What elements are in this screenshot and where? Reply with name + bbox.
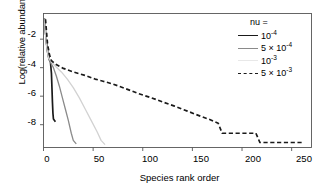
y-tick-label: -8 bbox=[18, 116, 36, 127]
legend-item-1[interactable]: 5 × 10-4 bbox=[238, 42, 292, 55]
legend-swatch-solid-lightgray bbox=[238, 60, 258, 61]
x-tick-label: 0 bbox=[32, 153, 62, 164]
legend-item-2[interactable]: 10-3 bbox=[238, 55, 292, 68]
series-line-2 bbox=[44, 19, 105, 144]
legend-swatch-solid-black bbox=[238, 35, 258, 36]
y-tick-label: -2 bbox=[18, 28, 36, 39]
legend-label-2: 10-3 bbox=[261, 55, 277, 68]
legend-swatch-solid-gray bbox=[238, 48, 258, 49]
legend-label-0: 10-4 bbox=[261, 30, 277, 43]
x-tick-label: 150 bbox=[186, 153, 216, 164]
series-line-1 bbox=[44, 19, 76, 144]
x-tick-label: 50 bbox=[84, 153, 114, 164]
x-tick-label: 200 bbox=[238, 153, 268, 164]
y-axis-label: Log(relative abundance) bbox=[16, 0, 27, 101]
y-tick-label: -6 bbox=[18, 87, 36, 98]
x-axis-label: Species rank order bbox=[47, 172, 312, 183]
legend-title: nu = bbox=[250, 16, 292, 29]
legend-label-3: 5 × 10-3 bbox=[261, 67, 292, 80]
x-tick-label: 250 bbox=[289, 153, 319, 164]
chart-figure: Log(relative abundance) Species rank ord… bbox=[0, 0, 328, 190]
legend-item-3[interactable]: 5 × 10-3 bbox=[238, 67, 292, 80]
y-tick-label: -4 bbox=[18, 58, 36, 69]
legend: nu = 10-4 5 × 10-4 10-3 5 × 10-3 bbox=[238, 16, 292, 80]
legend-swatch-dashed-black bbox=[238, 73, 258, 74]
legend-item-0[interactable]: 10-4 bbox=[238, 30, 292, 43]
x-tick-label: 100 bbox=[135, 153, 165, 164]
